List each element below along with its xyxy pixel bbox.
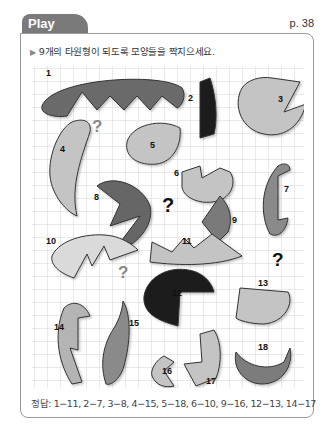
- label-11: 11: [182, 236, 192, 246]
- label-7: 7: [284, 184, 289, 194]
- answer-label: 정답:: [31, 398, 51, 409]
- label-16: 16: [162, 366, 172, 376]
- question-mark-1: ?: [92, 117, 102, 136]
- label-5: 5: [150, 140, 155, 150]
- page-number: p. 38: [290, 17, 314, 29]
- answer-key: 정답: 1−11, 2−7, 3−8, 4−15, 5−18, 6−10, 9−…: [31, 396, 316, 410]
- instruction: ▶9개의 타원형이 되도록 모양들을 짝지으세요.: [30, 44, 215, 58]
- label-1: 1: [46, 68, 51, 78]
- label-4: 4: [60, 144, 65, 154]
- label-6: 6: [174, 168, 179, 178]
- question-mark-2: ?: [162, 194, 174, 216]
- label-17: 17: [206, 376, 216, 386]
- puzzle-grid: 1 2 3 4 5 6 7 8 9 10 11 12 13 14 15 16 1…: [32, 66, 304, 388]
- answer-text: 1−11, 2−7, 3−8, 4−15, 5−18, 6−10, 9−16, …: [54, 398, 316, 409]
- label-8: 8: [94, 192, 99, 202]
- label-15: 15: [129, 318, 139, 328]
- label-9: 9: [232, 215, 237, 225]
- question-mark-4: ?: [272, 249, 284, 270]
- label-18: 18: [258, 342, 268, 352]
- label-13: 13: [258, 278, 268, 288]
- instruction-text: 9개의 타원형이 되도록 모양들을 짝지으세요.: [39, 46, 215, 57]
- question-mark-3: ?: [118, 263, 128, 282]
- bullet-triangle-icon: ▶: [30, 48, 36, 57]
- label-14: 14: [54, 322, 64, 332]
- label-12: 12: [172, 288, 182, 298]
- label-3: 3: [278, 94, 283, 104]
- label-2: 2: [188, 93, 193, 103]
- label-10: 10: [46, 236, 56, 246]
